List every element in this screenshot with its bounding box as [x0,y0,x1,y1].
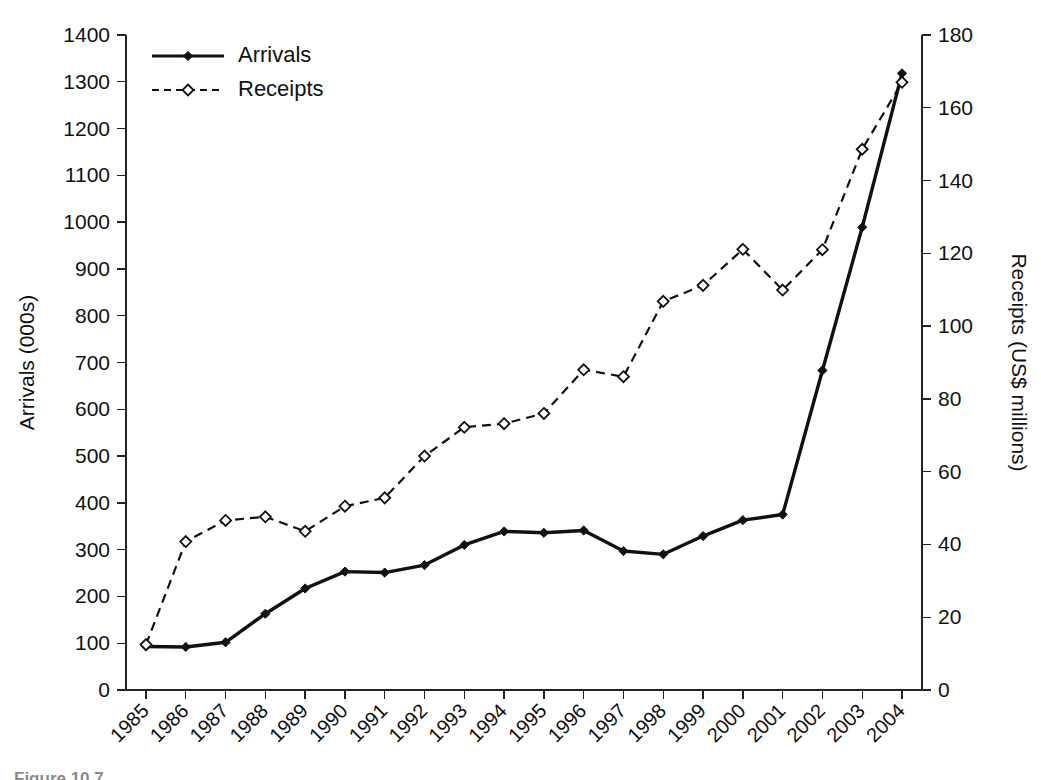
y-axis-tick-label: 1200 [63,117,110,140]
y-axis-tick-label: 100 [75,631,110,654]
data-point-receipts [339,501,350,512]
y2-axis-tick-label: 100 [938,314,973,337]
data-point-arrivals [818,366,827,375]
chart-container: 0100200300400500600700800900100011001200… [0,0,1041,780]
axes-layer: 0100200300400500600700800900100011001200… [15,23,1031,746]
y2-axis-tick-label: 20 [938,605,961,628]
y2-axis-tick-label: 120 [938,241,973,264]
y-axis-tick-label: 1000 [63,210,110,233]
series-line-receipts [146,82,902,644]
x-axis-tick-label: 1997 [583,699,630,746]
y2-axis-tick-label: 0 [938,678,950,701]
y-axis-tick-label: 600 [75,397,110,420]
x-axis-tick-label: 1987 [185,699,232,746]
y2-axis-tick-label: 40 [938,532,961,555]
y2-axis-tick-label: 160 [938,96,973,119]
y2-axis-title: Receipts (US$ millions) [1008,253,1031,471]
y2-axis-tick-label: 80 [938,387,961,410]
data-point-receipts [857,144,868,155]
y-axis-tick-label: 900 [75,257,110,280]
x-axis-tick-label: 2004 [862,699,909,746]
legend-marker [183,51,192,60]
data-point-receipts [658,296,669,307]
x-axis-tick-label: 2003 [822,699,869,746]
x-axis-tick-label: 1990 [305,699,352,746]
series-line-arrivals [146,73,902,647]
data-point-receipts [300,526,311,537]
y2-axis-tick-label: 140 [938,169,973,192]
data-point-arrivals [778,510,787,519]
x-axis-tick-label: 2002 [782,699,829,746]
data-point-receipts [618,371,629,382]
y-axis-tick-label: 800 [75,304,110,327]
data-point-arrivals [858,223,867,232]
x-axis-tick-label: 1985 [106,699,153,746]
x-axis-tick-label: 2001 [742,699,789,746]
x-axis-tick-label: 1988 [225,699,272,746]
y-axis-tick-label: 300 [75,538,110,561]
x-axis-tick-label: 1994 [464,699,511,746]
legend-label-arrivals: Arrivals [238,42,311,67]
x-axis-tick-label: 2000 [703,699,750,746]
y-axis-tick-label: 500 [75,444,110,467]
line-chart: 0100200300400500600700800900100011001200… [0,0,1041,780]
x-axis-tick-label: 1991 [345,699,392,746]
data-point-arrivals [380,568,389,577]
data-point-arrivals [738,516,747,525]
data-point-receipts [578,364,589,375]
y-axis-title: Arrivals (000s) [15,295,38,430]
data-point-receipts [220,515,231,526]
data-point-arrivals [340,567,349,576]
y2-axis-tick-label: 60 [938,460,961,483]
y2-axis-tick-label: 180 [938,23,973,46]
legend-label-receipts: Receipts [238,76,324,101]
data-point-arrivals [500,527,509,536]
data-point-arrivals [539,528,548,537]
y-axis-tick-label: 1300 [63,70,110,93]
x-axis-tick-label: 1992 [384,699,431,746]
data-point-arrivals [181,642,190,651]
data-point-receipts [141,639,152,650]
data-point-receipts [260,511,271,522]
data-point-receipts [698,280,709,291]
y-axis-tick-label: 200 [75,584,110,607]
y-axis-tick-label: 1400 [63,23,110,46]
chart-legend: ArrivalsReceipts [152,42,324,101]
x-axis-tick-label: 1996 [543,699,590,746]
x-axis-tick-label: 1999 [663,699,710,746]
data-point-receipts [499,418,510,429]
legend-marker [183,85,194,96]
data-point-receipts [180,536,191,547]
y-axis-tick-label: 1100 [65,163,110,186]
figure-caption: Figure 10.7 [14,768,434,780]
x-axis-tick-label: 1986 [146,699,193,746]
series-layer [141,69,908,652]
x-axis-tick-label: 1993 [424,699,471,746]
y-axis-tick-label: 400 [75,491,110,514]
y-axis-tick-label: 700 [75,351,110,374]
y-axis-tick-label: 0 [98,678,110,701]
x-axis-tick-label: 1995 [504,699,551,746]
x-axis-tick-label: 1989 [265,699,312,746]
plot-frame [126,35,922,690]
x-axis-tick-label: 1998 [623,699,670,746]
